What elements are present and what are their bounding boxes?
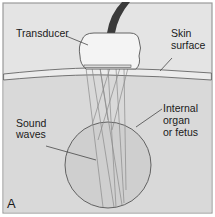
label-transducer: Transducer [16,28,69,39]
panel-letter: A [7,196,16,211]
label-skin-2: surface [171,40,205,51]
label-organ-3: or fetus [163,127,198,138]
internal-organ [65,122,151,208]
label-organ-2: organ [163,115,190,126]
label-sound-2: waves [16,129,46,140]
label-organ-1: Internal [163,103,198,114]
label-skin-1: Skin [171,28,191,39]
transducer [79,33,140,69]
transducer-face [84,65,131,68]
ultrasound-diagram: Transducer Skin surface Sound waves Inte… [0,0,215,217]
